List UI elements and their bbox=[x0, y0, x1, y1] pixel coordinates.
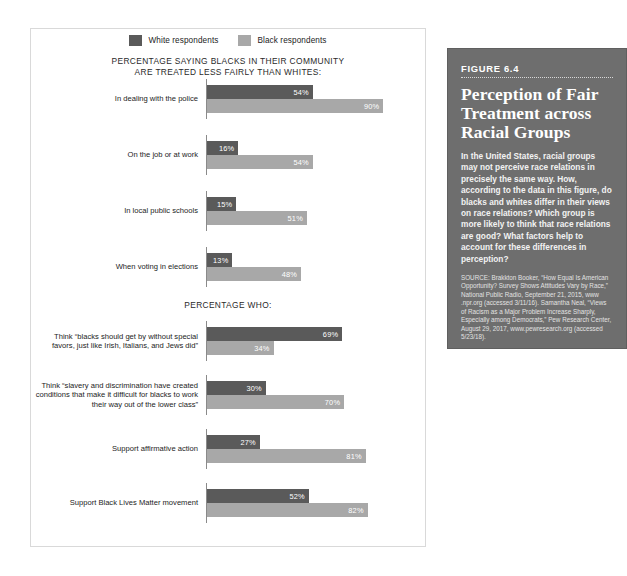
bar-row-white: 52% bbox=[207, 489, 425, 503]
figure-number: FIGURE 6.4 bbox=[461, 63, 613, 77]
bar-row-black: 48% bbox=[207, 267, 425, 281]
bar-group-label: Think “blacks should get by without spec… bbox=[31, 332, 206, 351]
bar-value-white: 30% bbox=[246, 384, 265, 393]
bar-value-white: 52% bbox=[290, 492, 309, 501]
section-heading-1-line2: ARE TREATED LESS FAIRLY THAN WHITES: bbox=[31, 67, 425, 78]
bar-value-white: 69% bbox=[323, 330, 342, 339]
bar-white: 54% bbox=[207, 85, 313, 99]
bar-value-black: 90% bbox=[364, 102, 383, 111]
bar-pair: 16%54% bbox=[206, 135, 425, 175]
bar-group: On the job or at work16%54% bbox=[31, 135, 425, 175]
figure-callout-box: FIGURE 6.4 Perception of Fair Treatment … bbox=[447, 48, 627, 349]
bar-value-black: 54% bbox=[293, 158, 312, 167]
bar-black: 82% bbox=[207, 503, 368, 517]
bar-white: 30% bbox=[207, 381, 266, 395]
figure-dotted-divider bbox=[461, 77, 613, 78]
bar-pair: 27%81% bbox=[206, 429, 425, 469]
bar-row-white: 69% bbox=[207, 327, 425, 341]
bar-pair: 54%90% bbox=[206, 79, 425, 119]
bar-row-white: 16% bbox=[207, 141, 425, 155]
bar-value-black: 81% bbox=[346, 452, 365, 461]
bar-group-list-2: Think “blacks should get by without spec… bbox=[31, 321, 425, 537]
bar-row-white: 13% bbox=[207, 253, 425, 267]
bar-group-label: On the job or at work bbox=[31, 150, 206, 159]
section-heading-1-line1: PERCENTAGE SAYING BLACKS IN THEIR COMMUN… bbox=[31, 56, 425, 67]
figure-page: White respondents Black respondents PERC… bbox=[0, 0, 627, 576]
bar-white: 27% bbox=[207, 435, 260, 449]
section-heading-1: PERCENTAGE SAYING BLACKS IN THEIR COMMUN… bbox=[31, 56, 425, 78]
bar-row-black: 81% bbox=[207, 449, 425, 463]
legend-label-white: White respondents bbox=[148, 36, 218, 45]
bar-row-black: 34% bbox=[207, 341, 425, 355]
bar-black: 70% bbox=[207, 395, 344, 409]
bar-value-white: 27% bbox=[241, 438, 260, 447]
bar-group-label: In dealing with the police bbox=[31, 94, 206, 103]
legend-item-black: Black respondents bbox=[238, 35, 326, 46]
bar-group: Think “slavery and discrimination have c… bbox=[31, 375, 425, 415]
bar-group-label: When voting in elections bbox=[31, 262, 206, 271]
bar-group: Support affirmative action27%81% bbox=[31, 429, 425, 469]
legend-swatch-white bbox=[129, 35, 142, 46]
bar-group-label: Support affirmative action bbox=[31, 444, 206, 453]
chart-panel: White respondents Black respondents PERC… bbox=[30, 28, 426, 547]
bar-value-white: 13% bbox=[213, 256, 232, 265]
figure-source-citation: SOURCE: Brakkton Booker, “How Equal Is A… bbox=[461, 274, 613, 341]
bar-value-white: 54% bbox=[293, 88, 312, 97]
bar-pair: 30%70% bbox=[206, 375, 425, 415]
bar-white: 16% bbox=[207, 141, 238, 155]
bar-value-white: 15% bbox=[217, 200, 236, 209]
bar-row-black: 51% bbox=[207, 211, 425, 225]
bar-pair: 52%82% bbox=[206, 483, 425, 523]
bar-black: 54% bbox=[207, 155, 313, 169]
bar-group: Think “blacks should get by without spec… bbox=[31, 321, 425, 361]
bar-group-list-1: In dealing with the police54%90%On the j… bbox=[31, 79, 425, 303]
legend-swatch-black bbox=[238, 35, 251, 46]
bar-black: 81% bbox=[207, 449, 366, 463]
bar-group: In dealing with the police54%90% bbox=[31, 79, 425, 119]
bar-row-black: 54% bbox=[207, 155, 425, 169]
bar-pair: 69%34% bbox=[206, 321, 425, 361]
bar-white: 69% bbox=[207, 327, 342, 341]
bar-value-black: 48% bbox=[282, 270, 301, 279]
bar-row-white: 54% bbox=[207, 85, 425, 99]
bar-group: In local public schools15%51% bbox=[31, 191, 425, 231]
bar-pair: 13%48% bbox=[206, 247, 425, 287]
bar-group-label: Support Black Lives Matter movement bbox=[31, 498, 206, 507]
bar-black: 90% bbox=[207, 99, 383, 113]
bar-white: 52% bbox=[207, 489, 309, 503]
section-heading-2-line1: PERCENTAGE WHO: bbox=[31, 300, 425, 311]
bar-black: 48% bbox=[207, 267, 301, 281]
bar-black: 51% bbox=[207, 211, 307, 225]
bar-pair: 15%51% bbox=[206, 191, 425, 231]
section-heading-2: PERCENTAGE WHO: bbox=[31, 300, 425, 311]
bar-group: When voting in elections13%48% bbox=[31, 247, 425, 287]
bar-value-black: 34% bbox=[254, 344, 273, 353]
bar-row-black: 90% bbox=[207, 99, 425, 113]
bar-value-white: 16% bbox=[219, 144, 238, 153]
bar-value-black: 82% bbox=[348, 506, 367, 515]
bar-white: 13% bbox=[207, 253, 232, 267]
bar-row-black: 82% bbox=[207, 503, 425, 517]
bar-group-label: Think “slavery and discrimination have c… bbox=[31, 381, 206, 409]
bar-row-white: 27% bbox=[207, 435, 425, 449]
legend-label-black: Black respondents bbox=[257, 36, 326, 45]
bar-group-label: In local public schools bbox=[31, 206, 206, 215]
bar-row-white: 15% bbox=[207, 197, 425, 211]
bar-group: Support Black Lives Matter movement52%82… bbox=[31, 483, 425, 523]
bar-row-black: 70% bbox=[207, 395, 425, 409]
legend-item-white: White respondents bbox=[129, 35, 218, 46]
bar-white: 15% bbox=[207, 197, 236, 211]
bar-row-white: 30% bbox=[207, 381, 425, 395]
bar-black: 34% bbox=[207, 341, 274, 355]
chart-legend: White respondents Black respondents bbox=[31, 35, 425, 46]
figure-title: Perception of Fair Treatment across Raci… bbox=[461, 85, 613, 142]
bar-value-black: 70% bbox=[325, 398, 344, 407]
figure-body-text: In the United States, racial groups may … bbox=[461, 151, 613, 265]
bar-value-black: 51% bbox=[288, 214, 307, 223]
